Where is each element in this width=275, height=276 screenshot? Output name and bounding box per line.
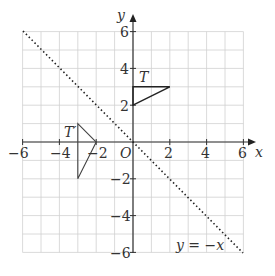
y-tick-label: 4 bbox=[120, 61, 129, 77]
x-tick-label: 6 bbox=[238, 145, 247, 161]
y-tick-label: −6 bbox=[110, 245, 131, 261]
coordinate-plane: x y O T T′ y = −x −6 −4 −2 2 4 6 6 4 2 −… bbox=[0, 0, 275, 276]
line-label: y = −x bbox=[175, 237, 224, 253]
y-tick-label: 6 bbox=[120, 24, 129, 40]
y-tick-label: −4 bbox=[110, 208, 131, 224]
x-tick-label: 2 bbox=[164, 145, 173, 161]
y-tick-label: 2 bbox=[120, 98, 129, 114]
x-axis-label: x bbox=[255, 144, 263, 160]
x-tick-label: 4 bbox=[201, 145, 210, 161]
y-axis-arrow-icon bbox=[130, 14, 137, 22]
x-tick-label: −2 bbox=[87, 145, 108, 161]
x-tick-label: −4 bbox=[50, 145, 71, 161]
x-tick-label: −6 bbox=[8, 145, 29, 161]
label-T: T bbox=[139, 69, 150, 85]
coordinate-diagram: x y O T T′ y = −x −6 −4 −2 2 4 6 6 4 2 −… bbox=[0, 0, 275, 276]
origin-label: O bbox=[120, 145, 132, 161]
y-axis-label: y bbox=[116, 7, 126, 23]
y-tick-label: −2 bbox=[110, 171, 131, 187]
label-T-prime: T′ bbox=[64, 124, 77, 140]
